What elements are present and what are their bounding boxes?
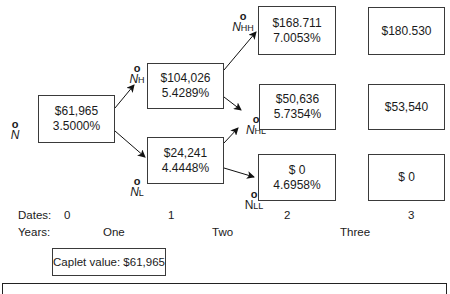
- node-box-hh: $168.711 7.0053%: [258, 6, 336, 55]
- node-box-ll: $ 0 4.6958%: [258, 154, 336, 201]
- year-two: Two: [212, 226, 233, 238]
- terminal-box-lll: $ 0: [368, 154, 445, 201]
- node-rate: 4.6958%: [273, 178, 320, 193]
- node-rate: 5.7354%: [274, 107, 321, 122]
- date-3: 3: [408, 209, 414, 221]
- node-rate: 3.5000%: [53, 119, 100, 134]
- dates-label: Dates:: [18, 209, 51, 221]
- node-value: $61,965: [55, 104, 98, 119]
- node-value: $104,026: [160, 71, 210, 86]
- date-1: 1: [168, 209, 174, 221]
- terminal-box-hhl: $53,540: [368, 84, 445, 130]
- date-2: 2: [284, 209, 290, 221]
- year-three: Three: [340, 226, 370, 238]
- years-label: Years:: [18, 226, 50, 238]
- node-label-hh: o NHH: [229, 12, 257, 34]
- year-one: One: [103, 226, 125, 238]
- caplet-value-box: Caplet value: $61,965: [52, 248, 166, 276]
- node-rate: 7.0053%: [273, 31, 320, 46]
- node-value: $50,636: [276, 92, 319, 107]
- bottom-frame: [2, 283, 447, 294]
- date-0: 0: [64, 209, 70, 221]
- terminal-value: $53,540: [385, 100, 428, 115]
- node-rate: 4.4448%: [162, 161, 209, 176]
- caplet-value-text: Caplet value: $61,965: [53, 255, 165, 270]
- node-value: $24,241: [164, 146, 207, 161]
- node-box-hl: $50,636 5.7354%: [259, 84, 336, 130]
- terminal-value: $180.530: [381, 24, 431, 39]
- node-label-h: o NH: [127, 64, 147, 86]
- node-box-l: $24,241 4.4448%: [147, 137, 224, 184]
- node-box-h: $104,026 5.4289%: [147, 63, 224, 109]
- node-value: $168.711: [272, 16, 321, 31]
- node-value: $ 0: [289, 163, 306, 178]
- terminal-box-hhh: $180.530: [368, 7, 445, 55]
- terminal-value: $ 0: [398, 170, 415, 185]
- node-label-root: o N: [8, 120, 22, 141]
- node-label-l: o NL: [127, 177, 147, 199]
- node-rate: 5.4289%: [162, 86, 209, 101]
- node-box-root: $61,965 3.5000%: [38, 95, 115, 143]
